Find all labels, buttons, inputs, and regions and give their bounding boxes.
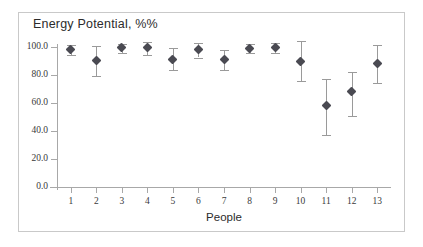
y-axis-tick bbox=[51, 159, 57, 160]
error-bar-cap bbox=[220, 50, 229, 51]
figure: Energy Potential, %% 0.020.040.060.080.0… bbox=[0, 0, 423, 247]
error-bar-cap bbox=[169, 48, 178, 49]
x-axis-tick bbox=[147, 188, 148, 193]
x-axis-tick bbox=[71, 188, 72, 193]
x-axis-tick bbox=[275, 188, 276, 193]
y-axis-tick-label: 40.0 bbox=[4, 125, 48, 135]
error-bar-cap bbox=[92, 76, 101, 77]
x-axis-title: People bbox=[58, 211, 390, 223]
error-bar-cap bbox=[194, 43, 203, 44]
error-bar-cap bbox=[118, 53, 127, 54]
x-axis-tick bbox=[301, 188, 302, 193]
y-axis-tick bbox=[51, 187, 57, 188]
error-bar-cap bbox=[169, 70, 178, 71]
x-axis-tick-label: 3 bbox=[110, 196, 134, 206]
x-axis-tick-label: 4 bbox=[135, 196, 159, 206]
error-bar-cap bbox=[373, 83, 382, 84]
y-axis-labels: 0.020.040.060.080.0100.0 bbox=[0, 0, 48, 247]
x-axis-tick bbox=[352, 188, 353, 193]
x-axis-tick-label: 1 bbox=[59, 196, 83, 206]
x-axis-tick-label: 9 bbox=[263, 196, 287, 206]
x-axis-tick bbox=[377, 188, 378, 193]
x-axis-tick-label: 7 bbox=[212, 196, 236, 206]
y-axis-tick-label: 100.0 bbox=[4, 41, 48, 51]
y-axis-tick bbox=[51, 131, 57, 132]
error-bar-cap bbox=[271, 53, 280, 54]
y-axis-tick bbox=[51, 75, 57, 76]
error-bar-cap bbox=[373, 45, 382, 46]
x-axis-tick bbox=[224, 188, 225, 193]
y-axis-tick-label: 80.0 bbox=[4, 69, 48, 79]
x-axis-line bbox=[50, 187, 391, 188]
error-bar-cap bbox=[246, 53, 255, 54]
error-bar-cap bbox=[143, 55, 152, 56]
x-axis-tick bbox=[122, 188, 123, 193]
error-bar-cap bbox=[67, 55, 76, 56]
x-axis-tick-label: 6 bbox=[186, 196, 210, 206]
error-bar-cap bbox=[322, 79, 331, 80]
x-axis-tick-label: 8 bbox=[238, 196, 262, 206]
y-axis-tick-label: 20.0 bbox=[4, 153, 48, 163]
error-bar-cap bbox=[194, 58, 203, 59]
x-axis-tick-label: 11 bbox=[314, 196, 338, 206]
y-axis-tick bbox=[51, 103, 57, 104]
x-axis-tick bbox=[250, 188, 251, 193]
error-bar-cap bbox=[92, 46, 101, 47]
error-bar-cap bbox=[348, 72, 357, 73]
error-bar-cap bbox=[220, 70, 229, 71]
x-axis-tick-label: 13 bbox=[365, 196, 389, 206]
error-bar-cap bbox=[322, 135, 331, 136]
y-axis-line bbox=[57, 44, 58, 190]
x-axis-tick-label: 5 bbox=[161, 196, 185, 206]
chart-title: Energy Potential, %% bbox=[33, 17, 158, 31]
y-axis-tick bbox=[51, 47, 57, 48]
x-axis-tick bbox=[198, 188, 199, 193]
x-axis-tick bbox=[96, 188, 97, 193]
y-axis-tick-label: 0.0 bbox=[4, 181, 48, 191]
y-axis-tick-label: 60.0 bbox=[4, 97, 48, 107]
error-bar-cap bbox=[348, 116, 357, 117]
error-bar-cap bbox=[297, 81, 306, 82]
x-axis-tick-label: 10 bbox=[289, 196, 313, 206]
error-bar-cap bbox=[297, 41, 306, 42]
x-axis-tick-label: 2 bbox=[84, 196, 108, 206]
x-axis-tick bbox=[173, 188, 174, 193]
x-axis-tick bbox=[326, 188, 327, 193]
x-axis-tick-label: 12 bbox=[340, 196, 364, 206]
